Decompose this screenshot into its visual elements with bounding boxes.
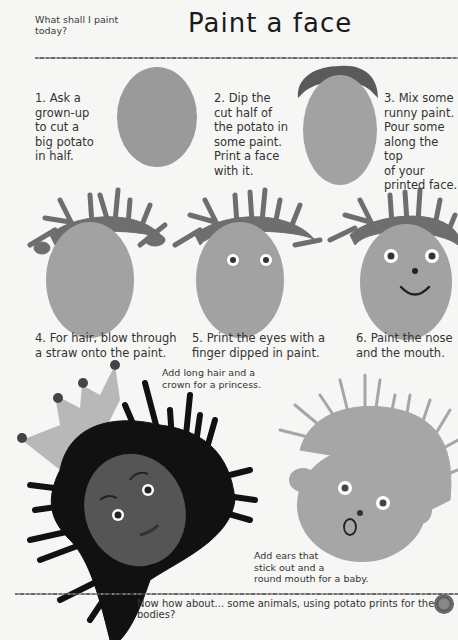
footer-text: Now how about... some animals, using pot… <box>137 598 458 620</box>
step-4: 4. For hair, blow through a straw onto t… <box>35 331 177 360</box>
bottom-divider <box>15 593 458 595</box>
step-5: 5. Print the eyes with a finger dipped i… <box>192 331 325 360</box>
step-2: 2. Dip the cut half of the potato in som… <box>214 91 288 178</box>
header-question: What shall I paint today? <box>35 14 125 36</box>
baby-note: Add ears that stick out and a round mout… <box>254 550 369 585</box>
princess-note: Add long hair and a crown for a princess… <box>162 367 261 390</box>
step-6: 6. Paint the nose and the mouth. <box>356 331 453 360</box>
page-title: Paint a face <box>188 8 352 38</box>
face-print-step3 <box>298 66 378 185</box>
face-step4 <box>46 222 134 338</box>
face-step6 <box>360 224 452 340</box>
top-divider <box>35 57 458 59</box>
face-step5 <box>196 222 284 338</box>
step-3: 3. Mix some runny paint. Pour some along… <box>384 91 458 193</box>
lion-face-icon <box>436 596 452 612</box>
potato-print-step1 <box>117 67 197 167</box>
step-1: 1. Ask a grown-up to cut a big potato in… <box>35 91 94 164</box>
